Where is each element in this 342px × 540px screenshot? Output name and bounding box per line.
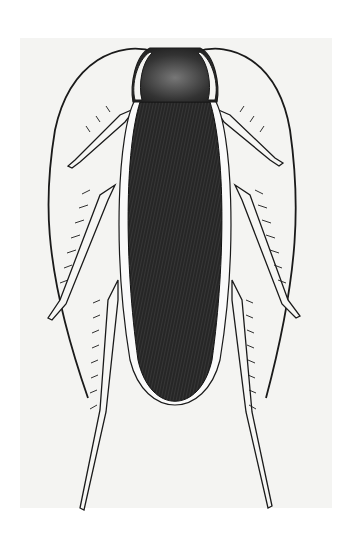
wings <box>128 102 222 401</box>
cockroach-illustration <box>0 0 342 540</box>
